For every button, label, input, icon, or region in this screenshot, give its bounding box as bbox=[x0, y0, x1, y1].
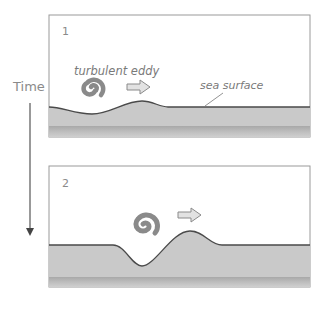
panel-2-deep-band bbox=[49, 277, 310, 287]
sea-surface-label: sea surface bbox=[200, 79, 264, 92]
time-arrow-head-icon bbox=[26, 228, 34, 236]
turbulent-eddy-label: turbulent eddy bbox=[74, 64, 160, 78]
panel-1: 1 turbulent eddy sea surface bbox=[49, 15, 310, 137]
panel-1-deep-band bbox=[49, 126, 310, 137]
eddy-diagram: Time 1 turbulent eddy sea surface 2 bbox=[0, 0, 328, 311]
time-label: Time bbox=[12, 79, 45, 94]
panel-1-number: 1 bbox=[62, 25, 69, 38]
time-axis: Time bbox=[12, 79, 45, 236]
panel-2-number: 2 bbox=[62, 177, 69, 190]
panel-2: 2 bbox=[49, 166, 310, 287]
